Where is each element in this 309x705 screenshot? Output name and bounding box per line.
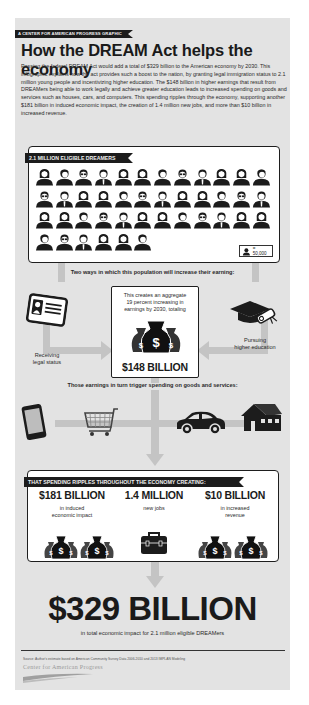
stat-increased-revenue: $10 BILLION in increased revenue xyxy=(194,489,276,519)
person-icon xyxy=(94,231,113,251)
person-icon xyxy=(133,209,152,229)
person-icon xyxy=(232,166,251,186)
people-grid xyxy=(35,166,275,252)
money-bags-icon: $ $ $ xyxy=(44,534,114,559)
earnings-total: $148 BILLION xyxy=(112,361,198,373)
person-icon xyxy=(133,166,152,186)
person-icon xyxy=(35,166,54,186)
person-icon xyxy=(232,209,251,229)
money-bags-icon xyxy=(198,534,268,559)
person-icon xyxy=(252,166,271,186)
svg-text:$: $ xyxy=(152,335,160,350)
stat-new-jobs: 1.4 MILLION new jobs xyxy=(114,489,194,512)
person-icon xyxy=(74,231,93,251)
person-icon xyxy=(114,209,133,229)
person-icon xyxy=(35,231,54,251)
earnings-panel: This creates an aggregate 19 percent inc… xyxy=(111,286,199,378)
person-icon xyxy=(193,166,212,186)
total-impact-value: $329 BILLION xyxy=(15,590,290,628)
shopping-cart-icon xyxy=(84,407,120,437)
economy-ripple-panel: That spending ripples throughout the eco… xyxy=(27,470,279,562)
arrow-down-icon xyxy=(146,454,164,466)
person-icon xyxy=(55,231,74,251)
earnings-description: This creates an aggregate 19 percent inc… xyxy=(112,292,198,313)
person-icon xyxy=(35,188,54,208)
person-icon xyxy=(173,209,192,229)
person-icon xyxy=(133,188,152,208)
person-icon xyxy=(55,188,74,208)
smartphone-icon xyxy=(20,402,48,441)
legend-value: = 50,000 xyxy=(253,246,270,256)
person-icon xyxy=(153,166,172,186)
person-icon xyxy=(212,188,231,208)
person-icon xyxy=(74,166,93,186)
spending-heading: Those earnings in turn trigger spending … xyxy=(15,382,290,388)
person-icon xyxy=(114,188,133,208)
person-icon xyxy=(35,209,54,229)
svg-text:$: $ xyxy=(169,341,174,350)
person-icon xyxy=(74,209,93,229)
icon-legend: = 50,000 xyxy=(239,245,273,257)
person-icon xyxy=(114,231,133,251)
person-icon xyxy=(94,188,113,208)
intro-paragraph: Passing the federal DREAM Act would add … xyxy=(21,63,287,118)
person-icon xyxy=(133,231,152,251)
person-icon xyxy=(94,209,113,229)
footer-divider xyxy=(21,650,285,651)
briefcase-icon xyxy=(140,531,168,555)
dreamers-ribbon: 2.1 Million Eligible Dreamers xyxy=(25,153,133,163)
svg-text:$: $ xyxy=(139,341,144,350)
person-icon xyxy=(153,188,172,208)
org-logo-flag-icon xyxy=(23,673,93,683)
money-bags-icon: $ $ $ xyxy=(129,316,183,354)
arrow-down-icon xyxy=(146,576,164,588)
person-icon xyxy=(252,209,271,229)
source-note: Source: Author's estimate based on Ameri… xyxy=(23,657,185,661)
higher-education-label: Pursuing higher education xyxy=(223,337,287,351)
person-icon xyxy=(74,188,93,208)
id-card-icon xyxy=(25,292,69,327)
person-icon xyxy=(212,209,231,229)
person-icon xyxy=(193,188,212,208)
person-icon xyxy=(252,188,271,208)
person-icon xyxy=(232,188,251,208)
eligible-dreamers-panel: 2.1 Million Eligible Dreamers = 50,000 xyxy=(28,146,280,263)
org-logo-text: Center for American Progress xyxy=(23,664,103,670)
two-ways-heading: Two ways in which this population will i… xyxy=(15,269,290,275)
person-icon xyxy=(173,188,192,208)
person-icon xyxy=(55,209,74,229)
car-icon xyxy=(175,411,227,435)
house-icon xyxy=(241,402,283,432)
stat-induced-impact: $181 BILLION in induced economic impact xyxy=(32,489,112,519)
person-icon xyxy=(242,247,251,256)
person-icon xyxy=(173,166,192,186)
publisher-ribbon: A Center for American Progress Graphic xyxy=(15,30,133,38)
person-icon xyxy=(212,166,231,186)
total-impact-caption: in total economic impact for 2.1 million… xyxy=(15,630,290,636)
infographic: A Center for American Progress Graphic H… xyxy=(15,18,290,690)
ripple-ribbon: That spending ripples throughout the eco… xyxy=(24,477,244,487)
svg-text:$: $ xyxy=(58,546,63,556)
person-icon xyxy=(94,166,113,186)
graduation-cap-icon xyxy=(228,299,280,335)
person-icon xyxy=(55,166,74,186)
legal-status-label: Receiving legal status xyxy=(21,352,73,366)
person-icon xyxy=(193,209,212,229)
person-icon xyxy=(153,209,172,229)
person-icon xyxy=(114,166,133,186)
